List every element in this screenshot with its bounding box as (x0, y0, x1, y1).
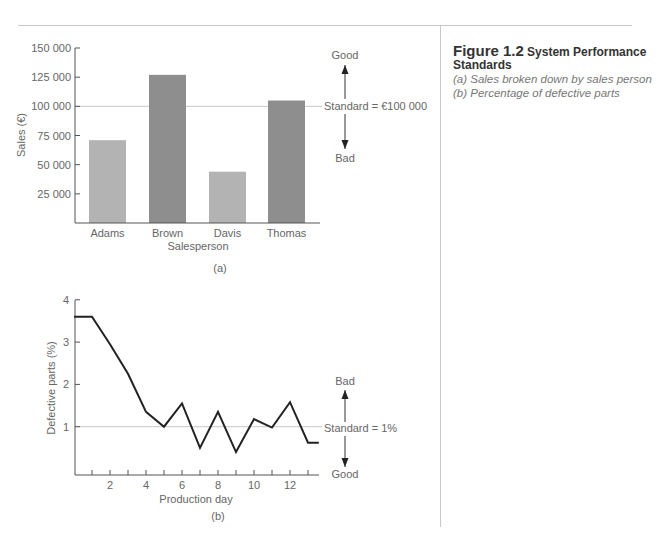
caption-item-a: (a) Sales broken down by sales person (453, 73, 658, 86)
x-tick-label: 4 (143, 479, 149, 491)
bad-label: Bad (335, 375, 355, 387)
y-tick-label: 2 (63, 378, 69, 390)
caption-item-b: (b) Percentage of defective parts (453, 87, 658, 100)
y-tick-label: 1 (63, 421, 69, 433)
y-tick-label: 3 (63, 336, 69, 348)
x-tick-label: 2 (107, 479, 113, 491)
x-tick-label: 10 (248, 479, 260, 491)
y-tick-label: 4 (63, 294, 69, 306)
good-label: Good (332, 468, 359, 480)
x-tick-label: 8 (215, 479, 221, 491)
figure-caption: Figure 1.2 System Performance Standards … (453, 44, 658, 100)
column-divider (440, 26, 441, 527)
defective-parts-line (74, 317, 319, 452)
figure-number: Figure 1.2 (453, 42, 524, 59)
down-arrow-head (342, 458, 349, 467)
panel-label: (b) (211, 510, 224, 522)
up-arrow-head (342, 390, 349, 399)
defective-parts-line-chart: 123424681012Production dayDefective part… (0, 0, 440, 554)
x-axis-label: Production day (159, 493, 233, 505)
x-tick-label: 6 (179, 479, 185, 491)
standard-label: Standard = 1% (324, 422, 397, 434)
x-tick-label: 12 (284, 479, 296, 491)
y-axis-label: Defective parts (%) (45, 341, 57, 435)
